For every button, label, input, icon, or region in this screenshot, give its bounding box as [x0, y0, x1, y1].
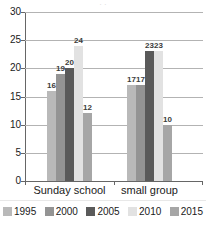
legend-divider [0, 200, 206, 201]
legend-swatch-icon [3, 207, 12, 216]
y-axis-tick [21, 68, 25, 69]
bar-value-label: 12 [79, 103, 96, 112]
legend-item-2000[interactable]: 2000 [45, 206, 78, 217]
grid-line [25, 40, 203, 41]
grid-line [25, 12, 203, 13]
bar [136, 85, 145, 181]
bar [47, 91, 56, 181]
legend-item-2015[interactable]: 2015 [170, 206, 203, 217]
y-axis-tick [21, 12, 25, 13]
bar [163, 125, 172, 181]
bar [65, 68, 74, 181]
legend-swatch-icon [170, 207, 179, 216]
bar [145, 51, 154, 181]
category-label: small group [105, 184, 195, 197]
category-separator-tick [25, 181, 26, 185]
plot-area: 16192024121717232310 [25, 12, 203, 182]
legend-item-1995[interactable]: 1995 [3, 206, 36, 217]
legend-item-2010[interactable]: 2010 [128, 206, 161, 217]
y-axis-labels: 051015202530 [0, 12, 21, 182]
legend-label: 2005 [97, 206, 119, 217]
bar [83, 113, 92, 181]
legend-label: 2000 [56, 206, 78, 217]
legend-swatch-icon [86, 207, 95, 216]
y-axis-tick-label: 15 [1, 92, 21, 102]
clipped-title-remnant: · · [0, 0, 206, 5]
bar-value-label: 24 [70, 36, 87, 45]
y-axis-tick-label: 10 [1, 120, 21, 130]
legend-item-2005[interactable]: 2005 [86, 206, 119, 217]
category-axis-labels: Sunday schoolsmall group [25, 184, 203, 198]
y-axis-tick-label: 0 [1, 176, 21, 186]
legend-swatch-icon [45, 207, 54, 216]
y-axis-tick [21, 153, 25, 154]
grouped-bar-chart: · · 051015202530 16192024121717232310 Su… [0, 0, 206, 225]
category-separator-tick [114, 181, 115, 185]
category-label: Sunday school [25, 184, 115, 197]
bar [56, 74, 65, 181]
legend: 19952000200520102015 [0, 203, 206, 219]
y-axis-tick-label: 5 [1, 148, 21, 158]
bar [74, 46, 83, 181]
bar-value-label: 10 [159, 115, 176, 124]
y-axis-tick [21, 125, 25, 126]
y-axis-tick-label: 30 [1, 7, 21, 17]
bar-value-label: 23 [150, 41, 167, 50]
legend-label: 1995 [14, 206, 36, 217]
y-axis-tick-label: 25 [1, 35, 21, 45]
legend-swatch-icon [128, 207, 137, 216]
y-axis-tick-label: 20 [1, 63, 21, 73]
y-axis-tick [21, 40, 25, 41]
bar [127, 85, 136, 181]
legend-label: 2010 [139, 206, 161, 217]
y-axis-tick [21, 97, 25, 98]
category-separator-tick [202, 181, 203, 185]
legend-label: 2015 [181, 206, 203, 217]
